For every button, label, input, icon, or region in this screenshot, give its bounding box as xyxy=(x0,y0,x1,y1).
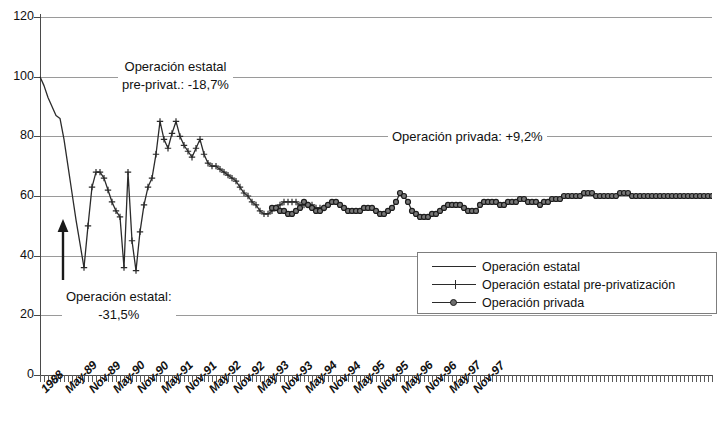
y-axis-tick-label: 80 xyxy=(0,129,34,142)
x-axis-tick xyxy=(508,375,509,382)
series-marker-circle xyxy=(514,199,519,204)
series-marker-circle xyxy=(438,208,443,213)
series-marker-plus xyxy=(89,184,95,190)
series-marker-plus xyxy=(105,187,111,193)
series-marker-plus xyxy=(93,169,99,175)
series-marker-circle xyxy=(586,191,591,196)
x-axis-tick xyxy=(572,375,573,382)
x-axis-tick xyxy=(588,375,589,382)
series-marker-circle xyxy=(462,205,467,210)
series-marker-circle xyxy=(590,191,595,196)
series-marker-circle xyxy=(506,199,511,204)
series-marker-plus xyxy=(113,208,119,214)
series-marker-plus xyxy=(193,145,199,151)
series-marker-circle xyxy=(350,208,355,213)
series-marker-circle xyxy=(302,199,307,204)
legend-item-privada: Operación privada xyxy=(432,294,716,312)
x-axis-tick xyxy=(564,375,565,382)
legend-item-estatal: Operación estatal xyxy=(432,258,716,276)
series-marker-circle xyxy=(374,208,379,213)
up-arrow-icon xyxy=(54,218,72,280)
series-marker-plus xyxy=(221,169,227,175)
x-axis-tick xyxy=(548,375,549,382)
series-marker-circle xyxy=(282,208,287,213)
x-axis-tick xyxy=(708,375,709,382)
series-marker-circle xyxy=(418,214,423,219)
series-marker-plus xyxy=(185,148,191,154)
series-marker-plus xyxy=(101,175,107,181)
annotation-estatal-pre: Operación estatal pre-privat.: -18,7% xyxy=(118,58,233,93)
series-marker-circle xyxy=(330,199,335,204)
series-marker-circle xyxy=(582,191,587,196)
x-axis-tick xyxy=(672,375,673,382)
series-marker-plus xyxy=(141,202,147,208)
legend-item-estatal-pre: Operación estatal pre-privatización xyxy=(432,276,716,294)
series-marker-circle xyxy=(454,202,459,207)
x-axis-tick xyxy=(632,375,633,382)
x-axis-tick xyxy=(616,375,617,382)
x-axis-tick xyxy=(40,375,41,382)
series-marker-plus xyxy=(237,184,243,190)
x-axis-tick-label: 1988 xyxy=(38,368,66,396)
series-marker-circle xyxy=(518,196,523,201)
series-marker-circle xyxy=(354,208,359,213)
series-marker-circle xyxy=(342,205,347,210)
series-marker-circle xyxy=(542,199,547,204)
series-marker-circle xyxy=(322,205,327,210)
x-axis-tick xyxy=(624,375,625,382)
series-marker-plus xyxy=(229,175,235,181)
series-marker-circle xyxy=(554,196,559,201)
series-marker-plus xyxy=(289,199,295,205)
x-axis-tick xyxy=(612,375,613,382)
series-marker-plus xyxy=(217,166,223,172)
series-marker-plus xyxy=(265,211,271,217)
x-axis-tick xyxy=(636,375,637,382)
series-marker-plus xyxy=(133,267,139,273)
x-axis-tick xyxy=(600,375,601,382)
annotation-estatal-pre-line2: pre-privat.: -18,7% xyxy=(122,76,229,94)
x-axis-tick xyxy=(500,375,501,382)
legend-marker-circle-icon xyxy=(432,296,476,310)
series-marker-circle xyxy=(362,205,367,210)
series-marker-circle xyxy=(294,208,299,213)
gridline xyxy=(40,17,712,18)
series-marker-circle xyxy=(290,211,295,216)
series-marker-circle xyxy=(298,205,303,210)
series-marker-circle xyxy=(442,205,447,210)
series-marker-plus xyxy=(313,205,319,211)
x-axis-tick xyxy=(556,375,557,382)
series-marker-plus xyxy=(281,199,287,205)
x-axis-tick xyxy=(504,375,505,382)
series-marker-plus xyxy=(137,229,143,235)
series-marker-circle xyxy=(622,191,627,196)
series-marker-circle xyxy=(422,214,427,219)
annotation-estatal-pre-line1: Operación estatal xyxy=(122,58,229,76)
series-marker-plus xyxy=(309,202,315,208)
series-marker-circle xyxy=(470,208,475,213)
x-axis-tick xyxy=(604,375,605,382)
gridline xyxy=(40,136,712,137)
x-axis-tick xyxy=(568,375,569,382)
series-marker-circle xyxy=(446,202,451,207)
y-axis-tick-label: 0 xyxy=(0,368,34,381)
series-marker-plus xyxy=(285,199,291,205)
series-marker-circle xyxy=(414,211,419,216)
series-marker-plus xyxy=(257,208,263,214)
series-marker-plus xyxy=(273,205,279,211)
series-marker-circle xyxy=(538,202,543,207)
series-marker-circle xyxy=(378,211,383,216)
legend-marker-line-icon xyxy=(432,260,476,274)
series-marker-plus xyxy=(321,205,327,211)
y-axis-tick-label: 60 xyxy=(0,189,34,202)
series-marker-circle xyxy=(270,205,275,210)
series-marker-circle xyxy=(386,208,391,213)
series-marker-plus xyxy=(277,202,283,208)
x-axis-tick xyxy=(620,375,621,382)
series-marker-circle xyxy=(382,211,387,216)
series-marker-plus xyxy=(121,264,127,270)
y-axis-line xyxy=(40,14,41,378)
series-marker-circle xyxy=(326,202,331,207)
series-marker-plus xyxy=(125,169,131,175)
series-marker-plus xyxy=(129,238,135,244)
series-marker-plus xyxy=(253,202,259,208)
